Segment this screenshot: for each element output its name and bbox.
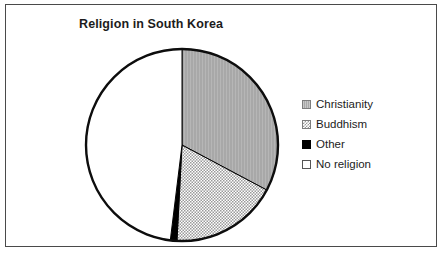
legend-item-other[interactable]: Other — [302, 135, 432, 153]
legend-item-no-religion[interactable]: No religion — [302, 155, 432, 173]
legend-label-christianity: Christianity — [316, 98, 373, 110]
chart-container: Religion in South Korea — [0, 0, 443, 255]
chart-legend: Christianity Buddhism Other No religion — [302, 95, 432, 175]
legend-swatch-no-religion — [302, 160, 311, 169]
legend-label-no-religion: No religion — [316, 158, 371, 170]
chart-title: Religion in South Korea — [6, 17, 296, 31]
chart-frame: Religion in South Korea — [5, 4, 437, 247]
legend-label-other: Other — [316, 138, 345, 150]
pie-slice-no-religion[interactable] — [86, 49, 182, 240]
pie-chart — [82, 45, 282, 245]
legend-swatch-other — [302, 140, 311, 149]
legend-item-christianity[interactable]: Christianity — [302, 95, 432, 113]
legend-item-buddhism[interactable]: Buddhism — [302, 115, 432, 133]
legend-swatch-buddhism — [302, 120, 311, 129]
legend-label-buddhism: Buddhism — [316, 118, 367, 130]
pie-svg — [82, 45, 282, 245]
legend-swatch-christianity — [302, 100, 311, 109]
